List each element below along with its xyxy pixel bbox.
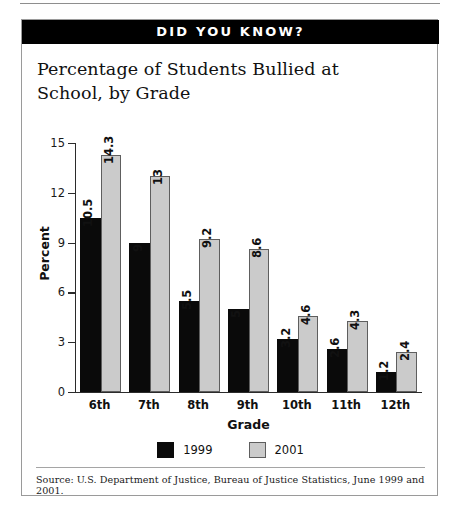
- bar-value-8th-2001: 9.2: [200, 228, 214, 248]
- bar-value-7th-1999: 9: [131, 244, 145, 252]
- source-note: Source: U.S. Department of Justice, Bure…: [36, 474, 428, 496]
- bar-6th-1999: [80, 218, 101, 392]
- y-tick-label: 0: [35, 385, 65, 399]
- bar-9th-2001: [249, 249, 270, 392]
- bar-value-12th-2001: 2.4: [398, 341, 412, 361]
- source-divider: [36, 467, 425, 468]
- bar-value-12th-1999: 1.2: [377, 361, 391, 381]
- legend-label-2001: 2001: [275, 443, 304, 457]
- bar-value-9th-2001: 8.6: [250, 238, 264, 258]
- x-axis-title: Grade: [75, 417, 422, 432]
- x-tick-label-10th: 10th: [272, 398, 321, 412]
- x-tick-label-6th: 6th: [75, 398, 124, 412]
- chart-legend: 19992001: [22, 442, 439, 458]
- bar-value-10th-1999: 3.2: [279, 328, 293, 348]
- legend-swatch-1999: [157, 442, 174, 458]
- y-tick: [68, 342, 76, 343]
- x-tick-label-11th: 11th: [321, 398, 370, 412]
- x-tick-label-7th: 7th: [124, 398, 173, 412]
- plot-area: 10.514.39135.59.258.63.24.62.64.31.22.4: [76, 143, 421, 392]
- bar-chart: Percent 03691215 10.514.39135.59.258.63.…: [22, 120, 439, 420]
- bar-8th-2001: [199, 239, 220, 392]
- bar-value-11th-2001: 4.3: [348, 309, 362, 329]
- y-tick-label: 6: [35, 285, 65, 299]
- bar-7th-2001: [150, 176, 171, 392]
- bar-6th-2001: [101, 155, 122, 392]
- legend-swatch-2001: [249, 442, 266, 458]
- x-tick-label-9th: 9th: [223, 398, 272, 412]
- bar-8th-1999: [179, 301, 200, 392]
- y-tick: [68, 243, 76, 244]
- y-tick: [68, 193, 76, 194]
- bar-value-6th-2001: 14.3: [102, 135, 116, 163]
- page-title: Percentage of Students Bullied at School…: [37, 57, 407, 105]
- page-top-rule: [20, 3, 440, 4]
- y-tick-label: 12: [35, 186, 65, 200]
- bar-value-9th-1999: 5: [229, 310, 243, 318]
- y-tick-label: 15: [35, 136, 65, 150]
- y-tick-label: 9: [35, 236, 65, 250]
- bar-value-10th-2001: 4.6: [299, 304, 313, 324]
- legend-label-1999: 1999: [183, 443, 212, 457]
- y-tick: [68, 392, 76, 393]
- legend-item-2001: 2001: [249, 442, 304, 458]
- bar-10th-2001: [298, 316, 319, 392]
- x-axis-line: [75, 392, 422, 393]
- bar-value-11th-1999: 2.6: [328, 337, 342, 357]
- bar-value-7th-2001: 13: [151, 169, 165, 185]
- bar-value-6th-1999: 10.5: [81, 198, 95, 226]
- bar-11th-2001: [347, 321, 368, 392]
- y-tick: [68, 143, 76, 144]
- did-you-know-figure: DID YOU KNOW? Percentage of Students Bul…: [21, 19, 438, 496]
- banner-title: DID YOU KNOW?: [22, 24, 439, 39]
- legend-item-1999: 1999: [157, 442, 212, 458]
- x-tick-label-12th: 12th: [371, 398, 420, 412]
- bar-value-8th-1999: 5.5: [180, 289, 194, 309]
- x-tick-label-8th: 8th: [174, 398, 223, 412]
- bar-9th-1999: [228, 309, 249, 392]
- y-tick-label: 3: [35, 335, 65, 349]
- did-you-know-banner: DID YOU KNOW?: [22, 20, 439, 44]
- y-tick: [68, 292, 76, 293]
- bar-7th-1999: [129, 243, 150, 392]
